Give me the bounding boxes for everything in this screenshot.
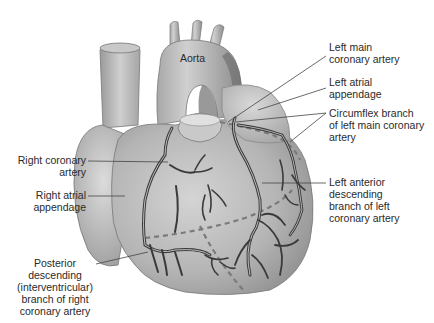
label-left-main-coronary-artery: Left main coronary artery: [329, 41, 400, 65]
label-left-anterior-descending: Left anterior descending branch of left …: [329, 176, 400, 224]
label-circumflex-branch: Circumflex branch of left main coronary …: [329, 107, 424, 143]
heart-diagram: Aorta Left main coronary artery Left atr…: [0, 0, 434, 323]
label-aorta: Aorta: [180, 52, 205, 64]
label-left-atrial-appendage: Left atrial appendage: [329, 76, 382, 100]
superior-vena-cava: [100, 43, 140, 128]
label-posterior-descending-branch: Posterior descending (interventricular) …: [12, 257, 98, 317]
label-right-coronary-artery: Right coronary artery: [0, 154, 86, 178]
label-right-atrial-appendage: Right atrial appendage: [0, 189, 86, 213]
